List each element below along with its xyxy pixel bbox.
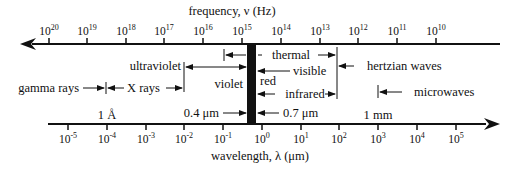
frequency-tick-label: 1013 bbox=[310, 23, 330, 37]
angstrom-marker: 1 Å bbox=[98, 108, 116, 122]
frequency-tick-label: 1020 bbox=[39, 23, 59, 37]
wavelength-tick-label: 101 bbox=[293, 131, 309, 145]
wavelength-tick-label: 10-1 bbox=[214, 131, 232, 145]
em-spectrum-diagram: frequency, ν (Hz) 1020101910181017101610… bbox=[0, 0, 513, 172]
frequency-tick-label: 1015 bbox=[232, 23, 252, 37]
thermal-label: thermal bbox=[272, 48, 311, 62]
ultraviolet-label: ultraviolet bbox=[130, 59, 182, 73]
violet-edge-label: 0.4 μm bbox=[184, 106, 219, 120]
wavelength-tick-label: 100 bbox=[254, 131, 270, 145]
frequency-axis-title: frequency, ν (Hz) bbox=[188, 4, 275, 18]
wavelength-tick-label: 10-3 bbox=[137, 131, 155, 145]
red-edge-marker: 0.7 μm bbox=[258, 106, 318, 120]
infrared-label: infrared bbox=[285, 87, 325, 101]
visible-band-bar bbox=[247, 45, 256, 124]
wavelength-tick-label: 10-2 bbox=[175, 131, 193, 145]
wavelength-tick-label: 10-5 bbox=[59, 131, 77, 145]
infrared-range: infrared bbox=[258, 87, 335, 101]
wavelength-tick-label: 102 bbox=[331, 131, 347, 145]
gamma-rays-label: gamma rays bbox=[18, 81, 79, 95]
frequency-tick-label: 1017 bbox=[154, 23, 174, 37]
frequency-tick-label: 1011 bbox=[387, 23, 406, 37]
microwaves-range: microwaves bbox=[378, 85, 475, 99]
wavelength-tick-label: 105 bbox=[448, 131, 464, 145]
frequency-tick-label: 1012 bbox=[348, 23, 368, 37]
frequency-tick-label: 1019 bbox=[77, 23, 97, 37]
wavelength-axis-title: wavelength, λ (μm) bbox=[211, 149, 309, 163]
wavelength-tick-label: 10-4 bbox=[98, 131, 116, 145]
gamma-xray-range: gamma rays X rays bbox=[18, 81, 182, 95]
x-rays-label: X rays bbox=[127, 81, 160, 95]
hertzian-waves-range: hertzian waves bbox=[339, 59, 442, 73]
frequency-axis: frequency, ν (Hz) 1020101910181017101610… bbox=[20, 4, 500, 50]
millimeter-marker: 1 mm bbox=[364, 108, 393, 122]
violet-label: violet bbox=[215, 77, 244, 91]
frequency-tick-label: 1018 bbox=[116, 23, 136, 37]
frequency-tick-label: 1010 bbox=[426, 23, 446, 37]
arrow-right-icon bbox=[484, 118, 500, 130]
frequency-tick-label: 1014 bbox=[271, 23, 291, 37]
red-label: red bbox=[260, 74, 277, 88]
visible-label: visible bbox=[293, 64, 327, 78]
wavelength-tick-label: 104 bbox=[409, 131, 425, 145]
violet-edge-marker: 0.4 μm bbox=[184, 106, 246, 120]
wavelength-ticks: 10-510-410-310-210-1100101102103104105 bbox=[59, 124, 464, 145]
red-edge-label: 0.7 μm bbox=[283, 106, 318, 120]
frequency-ticks: 1020101910181017101610151014101310121011… bbox=[39, 23, 446, 44]
wavelength-axis: 10-510-410-310-210-1100101102103104105 w… bbox=[48, 118, 500, 163]
hertzian-waves-label: hertzian waves bbox=[367, 59, 442, 73]
microwaves-label: microwaves bbox=[414, 85, 475, 99]
wavelength-tick-label: 103 bbox=[370, 131, 386, 145]
frequency-tick-label: 1016 bbox=[193, 23, 213, 37]
